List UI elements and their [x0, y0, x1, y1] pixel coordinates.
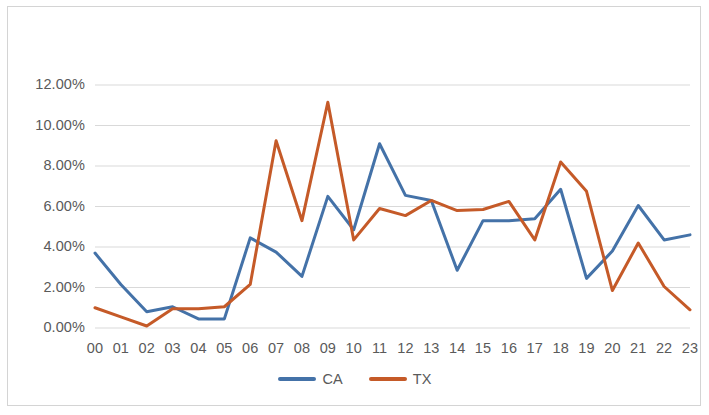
- x-axis-tick-label: 19: [573, 340, 601, 356]
- x-axis-tick-label: 10: [340, 340, 368, 356]
- x-axis-tick-label: 16: [495, 340, 523, 356]
- x-axis-tick-label: 01: [107, 340, 135, 356]
- x-axis-tick-label: 14: [443, 340, 471, 356]
- x-axis-tick-label: 03: [159, 340, 187, 356]
- legend-swatch-icon: [369, 377, 407, 381]
- x-axis-tick-label: 04: [184, 340, 212, 356]
- legend-item-ca[interactable]: CA: [278, 371, 342, 387]
- x-axis-tick-label: 21: [624, 340, 652, 356]
- x-axis-tick-label: 22: [650, 340, 678, 356]
- legend-label: CA: [322, 371, 342, 387]
- x-axis-tick-label: 23: [676, 340, 704, 356]
- plot-area: 0.00%2.00%4.00%6.00%8.00%10.00%12.00% 00…: [8, 7, 702, 407]
- x-axis-tick-label: 11: [366, 340, 394, 356]
- x-axis-tick-label: 18: [547, 340, 575, 356]
- data-series-group: [95, 102, 690, 326]
- x-axis-tick-label: 07: [262, 340, 290, 356]
- chart-container: 0.00%2.00%4.00%6.00%8.00%10.00%12.00% 00…: [7, 6, 701, 406]
- y-axis-tick-label: 2.00%: [43, 279, 85, 295]
- legend-label: TX: [413, 371, 432, 387]
- x-axis-tick-label: 06: [236, 340, 264, 356]
- x-axis-tick-label: 00: [81, 340, 109, 356]
- x-axis-tick-label: 02: [133, 340, 161, 356]
- series-line-ca: [95, 144, 690, 319]
- x-axis-tick-label: 20: [598, 340, 626, 356]
- x-axis-tick-label: 09: [314, 340, 342, 356]
- legend-swatch-icon: [278, 377, 316, 381]
- series-line-tx: [95, 102, 690, 326]
- x-axis-tick-label: 13: [417, 340, 445, 356]
- y-axis-tick-label: 10.00%: [35, 117, 85, 133]
- x-axis-tick-label: 15: [469, 340, 497, 356]
- x-axis-tick-label: 08: [288, 340, 316, 356]
- x-axis-tick-label: 12: [391, 340, 419, 356]
- legend-item-tx[interactable]: TX: [369, 371, 432, 387]
- y-axis-tick-label: 6.00%: [43, 198, 85, 214]
- y-axis-tick-label: 0.00%: [43, 319, 85, 335]
- chart-legend: CATX: [8, 371, 702, 387]
- gridlines: [95, 85, 690, 328]
- y-axis-tick-label: 12.00%: [35, 76, 85, 92]
- x-axis-tick-label: 17: [521, 340, 549, 356]
- y-axis-tick-label: 4.00%: [43, 238, 85, 254]
- x-axis-tick-label: 05: [210, 340, 238, 356]
- y-axis-tick-label: 8.00%: [43, 157, 85, 173]
